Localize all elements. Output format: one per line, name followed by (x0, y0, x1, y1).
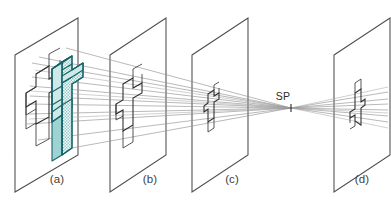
projection-diagram-canvas: SP (a) (b) (c) (d) (0, 0, 391, 219)
plane-label-d: (d) (355, 173, 369, 185)
picture-plane-b (110, 18, 166, 192)
perspective-projection-figure: SP (a) (b) (c) (d) (0, 0, 391, 219)
solid-lower-column-face (62, 99, 72, 155)
projection-ray (72, 108, 291, 148)
plane-label-b: (b) (143, 173, 157, 185)
plane-b-outline (110, 18, 166, 192)
plane-label-c: (c) (225, 173, 239, 185)
plane-label-a: (a) (50, 173, 64, 185)
station-point-label: SP (276, 90, 291, 102)
